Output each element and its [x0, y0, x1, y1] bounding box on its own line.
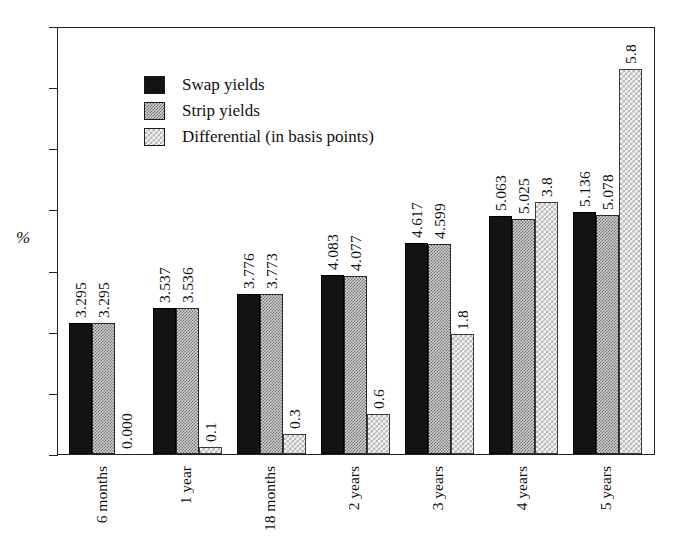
bar-value-label: 3.773 [263, 253, 281, 289]
bar-value-label: 3.536 [179, 267, 197, 303]
bar-diff [535, 202, 558, 454]
y-axis-tick [49, 88, 58, 89]
bar-value-label: 3.776 [240, 253, 258, 289]
y-axis-tick [49, 455, 58, 456]
bar-value-label: 5.078 [599, 174, 617, 210]
bar-value-label: 0.6 [370, 389, 388, 409]
bar-value-label: 3.295 [95, 282, 113, 318]
y-axis-tick [49, 27, 58, 28]
bar-value-label: 0.000 [118, 413, 136, 449]
y-axis-tick [49, 149, 58, 150]
bar-swap [153, 308, 176, 454]
y-axis-tick [49, 272, 58, 273]
bar-value-label: 5.063 [492, 175, 510, 211]
y-axis-tick [49, 333, 58, 334]
bar-diff [451, 334, 474, 454]
legend-label: Differential (in basis points) [182, 127, 374, 147]
legend-swatch-swap [144, 76, 165, 94]
legend-label: Swap yields [182, 75, 265, 95]
bar-diff [619, 69, 642, 454]
x-axis-label: 2 years [345, 466, 363, 510]
x-axis-label: 6 months [93, 466, 111, 523]
x-axis-label: 4 years [513, 466, 531, 510]
bar-value-label: 0.3 [286, 409, 304, 429]
bar-swap [69, 323, 92, 454]
bar-value-label: 1.8 [454, 310, 472, 330]
bar-value-label: 4.617 [408, 202, 426, 238]
legend-swatch-strip [144, 102, 165, 120]
bar-swap [237, 294, 260, 454]
bar-strip [344, 276, 367, 454]
bar-diff [367, 414, 390, 454]
bar-strip [260, 294, 283, 454]
y-axis-tick [49, 394, 58, 395]
x-axis-label: 1 year [177, 466, 195, 504]
legend-item: Differential (in basis points) [144, 124, 374, 150]
legend-swatch-diff [144, 128, 165, 146]
bar-diff [199, 447, 222, 454]
legend: Swap yieldsStrip yieldsDifferential (in … [144, 72, 374, 150]
y-axis-tick [49, 210, 58, 211]
bar-strip [428, 244, 451, 454]
bar-value-label: 5.136 [576, 171, 594, 207]
bar-swap [489, 216, 512, 454]
x-axis-label: 5 years [597, 466, 615, 510]
bar-value-label: 3.295 [72, 282, 90, 318]
legend-item: Swap yields [144, 72, 374, 98]
y-axis-label: % [16, 228, 30, 248]
bar-value-label: 4.599 [431, 203, 449, 239]
bar-value-label: 3.8 [538, 177, 556, 197]
plot-area: Swap yieldsStrip yieldsDifferential (in … [57, 27, 655, 455]
bar-value-label: 5.025 [515, 178, 533, 214]
bar-strip [176, 308, 199, 454]
bar-strip [512, 219, 535, 454]
x-axis-label: 3 years [429, 466, 447, 510]
chart-figure: % Swap yieldsStrip yieldsDifferential (i… [0, 0, 682, 544]
bar-swap [321, 275, 344, 454]
bar-strip [596, 215, 619, 454]
bar-value-label: 3.537 [156, 267, 174, 303]
legend-item: Strip yields [144, 98, 374, 124]
bar-strip [92, 323, 115, 454]
bar-value-label: 0.1 [202, 422, 220, 442]
bar-swap [405, 243, 428, 454]
legend-label: Strip yields [182, 101, 260, 121]
bar-value-label: 4.077 [347, 235, 365, 271]
bar-value-label: 4.083 [324, 234, 342, 270]
bar-swap [573, 212, 596, 454]
x-axis-label: 18 months [261, 466, 279, 531]
bar-diff [283, 434, 306, 454]
bar-value-label: 5.8 [622, 44, 640, 64]
